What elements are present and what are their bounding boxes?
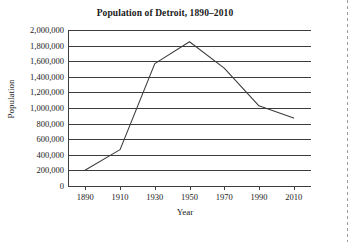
x-axis-tick-mark [294, 186, 295, 190]
y-axis-tick-label: 600,000 [4, 134, 64, 144]
x-axis-tick-mark [120, 186, 121, 190]
page-edge-artifact [347, 0, 348, 242]
y-axis-tick-label: 200,000 [4, 165, 64, 175]
x-axis-tick-label: 2010 [274, 192, 314, 202]
x-axis-label: Year [60, 207, 310, 217]
x-axis-tick-mark [85, 186, 86, 190]
x-axis-tick-mark [190, 186, 191, 190]
y-axis-tick-labels: 0200,000400,000600,000800,0001,000,0001,… [2, 30, 64, 187]
x-axis-tick-mark [224, 186, 225, 190]
y-axis-tick-label: 2,000,000 [4, 25, 64, 35]
y-axis-tick-label: 1,200,000 [4, 87, 64, 97]
y-axis-tick-label: 400,000 [4, 150, 64, 160]
y-axis-tick-label: 1,800,000 [4, 41, 64, 51]
y-axis-tick-label: 1,600,000 [4, 56, 64, 66]
y-axis-tick-label: 1,000,000 [4, 103, 64, 113]
y-axis-tick-label: 800,000 [4, 119, 64, 129]
y-axis-tick-label: 1,400,000 [4, 72, 64, 82]
chart-figure: Population of Detroit, 1890–2010 Populat… [0, 0, 351, 242]
y-axis-tick-label: 0 [4, 181, 64, 191]
x-axis-tick-labels: 1890191019301950197019902010 [68, 0, 311, 242]
x-axis-tick-mark [155, 186, 156, 190]
x-axis-tick-mark [259, 186, 260, 190]
